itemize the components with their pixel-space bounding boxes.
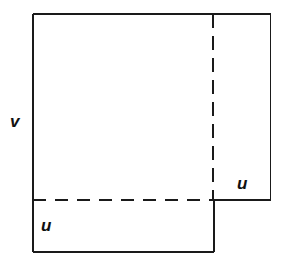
figure-container: v u u (0, 0, 291, 262)
label-v: v (10, 113, 19, 130)
label-u-right: u (237, 175, 247, 192)
label-u-bottom: u (41, 217, 51, 234)
